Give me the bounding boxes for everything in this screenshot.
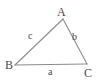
- side-a-line: [15, 64, 87, 65]
- side-c-line: [15, 19, 63, 65]
- side-label-c: c: [28, 31, 32, 41]
- vertex-label-c: C: [84, 67, 92, 79]
- vertex-label-b: B: [5, 59, 13, 71]
- side-label-a: a: [48, 67, 52, 77]
- vertex-label-a: A: [57, 6, 66, 18]
- side-label-b: b: [72, 32, 77, 42]
- triangle-outline: [15, 19, 87, 65]
- triangle-figure: A B C a b c: [0, 0, 101, 83]
